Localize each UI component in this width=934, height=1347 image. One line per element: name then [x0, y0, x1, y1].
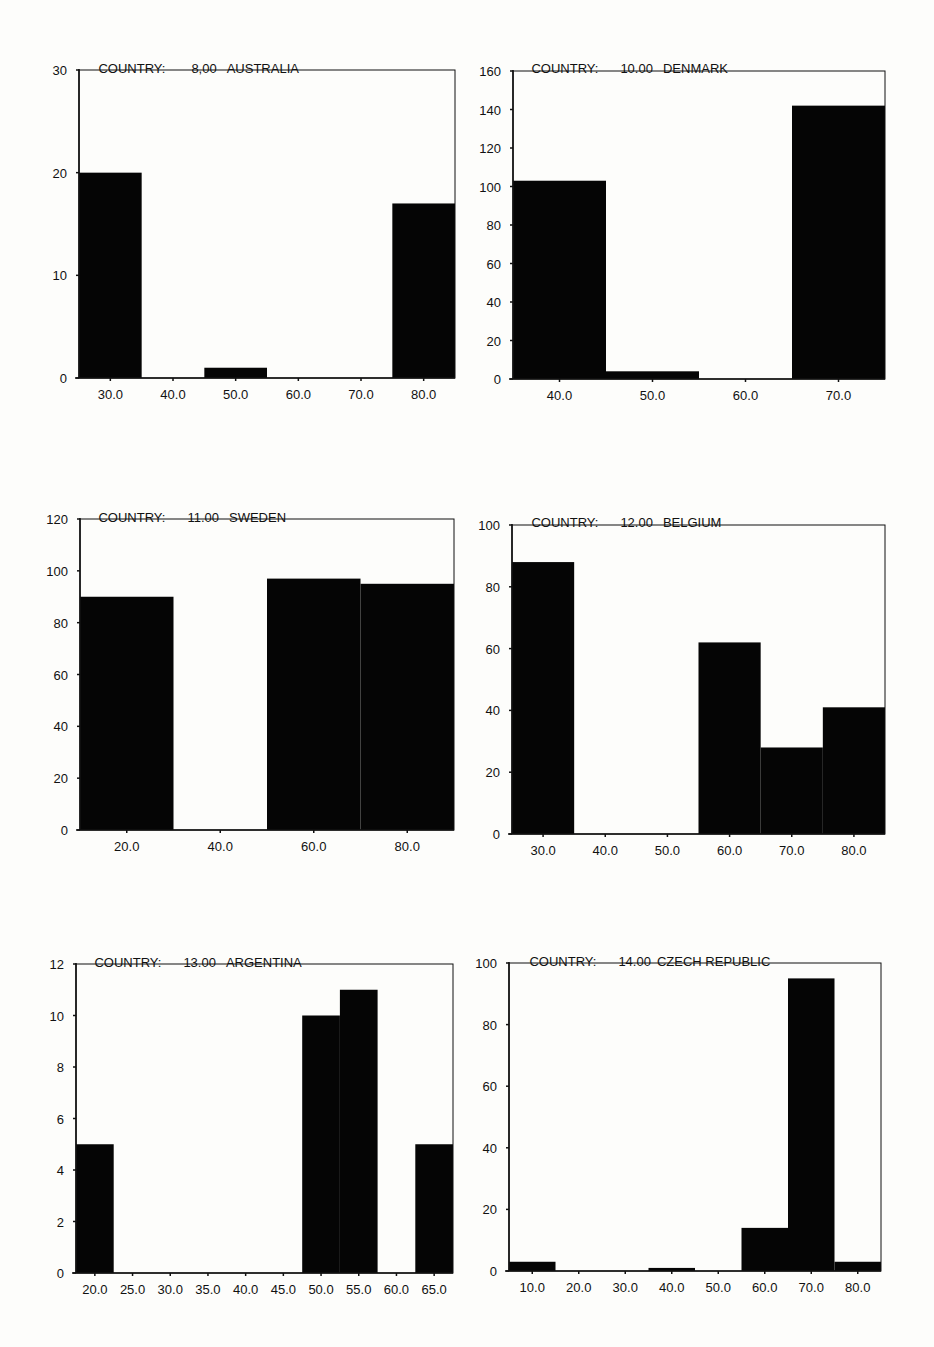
y-tick-label: 40	[483, 1141, 497, 1156]
x-tick-label: 80.0	[845, 1280, 870, 1295]
x-tick-label: 10.0	[520, 1280, 545, 1295]
histogram-bar	[788, 978, 835, 1271]
y-tick-label: 100	[475, 956, 497, 971]
histogram-panel-czech-republic: COUNTRY:14.00CZECH REPUBLIC 020406080100…	[0, 0, 934, 1347]
histogram-plot: 02040608010010.020.030.040.050.060.070.0…	[0, 0, 934, 1347]
histogram-bar	[509, 1262, 556, 1271]
histogram-bar	[742, 1228, 789, 1271]
y-tick-label: 80	[483, 1018, 497, 1033]
x-tick-label: 50.0	[706, 1280, 731, 1295]
y-tick-label: 20	[483, 1202, 497, 1217]
x-tick-label: 30.0	[613, 1280, 638, 1295]
x-tick-label: 20.0	[566, 1280, 591, 1295]
y-tick-label: 60	[483, 1079, 497, 1094]
histogram-bar	[835, 1262, 882, 1271]
x-tick-label: 60.0	[752, 1280, 777, 1295]
x-tick-label: 70.0	[799, 1280, 824, 1295]
y-tick-label: 0	[490, 1264, 497, 1279]
x-tick-label: 40.0	[659, 1280, 684, 1295]
